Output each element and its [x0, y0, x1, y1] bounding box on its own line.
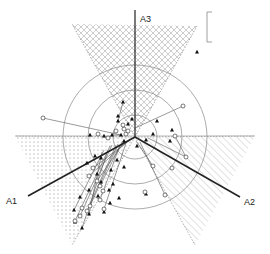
open-circle-point: [85, 209, 89, 213]
filled-triangle-point: [117, 196, 121, 200]
open-circle-point: [78, 214, 82, 218]
diagonal-sector: [135, 136, 255, 245]
axis-label-a3: A3: [140, 14, 151, 24]
filled-triangle-point: [155, 119, 159, 123]
open-circle-point: [106, 136, 110, 140]
open-circle-point: [98, 184, 102, 188]
open-circle-point: [91, 166, 95, 170]
open-circle-point: [73, 219, 77, 223]
open-circle-point: [170, 166, 174, 170]
open-circle-point: [96, 132, 100, 136]
open-circle-point: [151, 164, 155, 168]
filled-triangle-point: [116, 119, 120, 123]
open-circle-point: [98, 198, 102, 202]
open-circle-point: [80, 206, 84, 210]
connector-line: [43, 118, 121, 135]
open-circle-point: [173, 134, 177, 138]
open-circle-point: [101, 189, 105, 193]
filled-triangle-point: [108, 201, 112, 205]
filled-triangle-point: [151, 132, 155, 136]
open-circle-point: [181, 104, 185, 108]
open-circle-point: [102, 207, 106, 211]
open-circle-point: [126, 129, 130, 133]
axis-label-a2: A2: [244, 197, 255, 207]
axis-label-a1: A1: [6, 196, 17, 206]
radial-diagram: A1A2A3: [0, 0, 270, 254]
open-circle-point: [121, 123, 125, 127]
open-circle-point: [163, 193, 167, 197]
filled-triangle-point: [111, 182, 115, 186]
filled-triangle-point: [170, 128, 174, 132]
open-circle-point: [184, 155, 188, 159]
open-circle-point: [122, 127, 126, 131]
scale-bracket: [207, 12, 212, 42]
filled-triangle-point: [195, 50, 199, 54]
open-circle-point: [114, 129, 118, 133]
open-circle-point: [41, 116, 45, 120]
filled-triangle-point: [122, 165, 126, 169]
open-circle-point: [88, 204, 92, 208]
filled-triangle-point: [88, 133, 92, 137]
open-circle-point: [87, 174, 91, 178]
open-circle-point: [95, 179, 99, 183]
open-circle-point: [143, 190, 147, 194]
scale-bar: [207, 12, 212, 42]
